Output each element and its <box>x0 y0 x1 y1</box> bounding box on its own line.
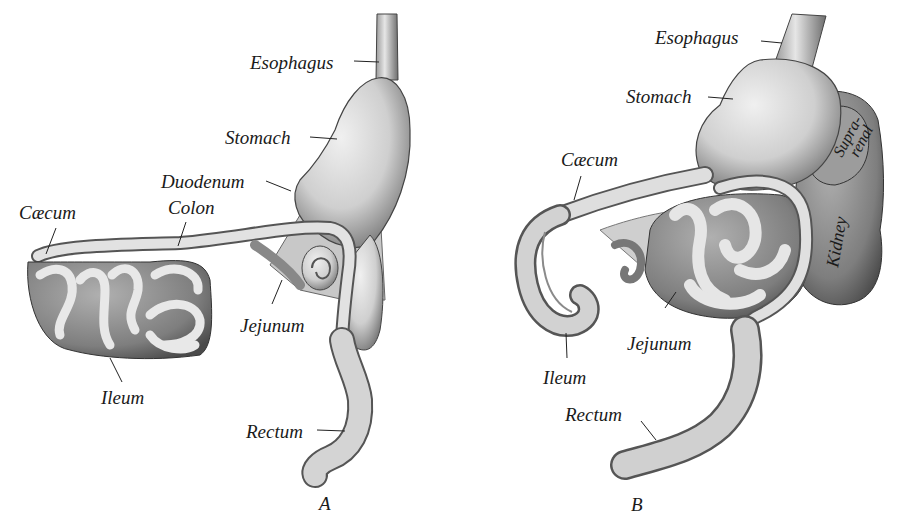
label-jejunum-b: Jejunum <box>627 334 691 353</box>
label-colon-a: Colon <box>168 198 214 217</box>
label-ileum-b: Ileum <box>543 368 586 387</box>
label-duodenum-a: Duodenum <box>161 172 244 191</box>
panel-a-drawing <box>28 14 411 475</box>
label-stomach-a: Stomach <box>225 128 290 147</box>
rectum-shape-a <box>314 340 360 475</box>
ileum-fold-b <box>542 232 572 312</box>
label-stomach-b: Stomach <box>626 87 691 106</box>
label-esophagus-b: Esophagus <box>655 28 738 47</box>
label-ileum-a: Ileum <box>101 388 144 407</box>
label-esophagus-a: Esophagus <box>250 53 333 72</box>
label-caecum-a: Cæcum <box>19 203 76 222</box>
anatomy-figure: Supra- renal Kidney Esophagus Stomach Du… <box>0 0 901 526</box>
jejunum-loop-a <box>302 246 338 290</box>
panel-b-drawing: Supra- renal Kidney <box>525 14 883 465</box>
label-rectum-b: Rectum <box>565 405 622 424</box>
label-caecum-b: Cæcum <box>561 150 618 169</box>
label-jejunum-a: Jejunum <box>240 316 304 335</box>
esophagus-shape-a <box>376 14 398 80</box>
label-rectum-a: Rectum <box>246 422 303 441</box>
digestive-tract-illustration: Supra- renal Kidney <box>0 0 901 526</box>
panel-letter-a: A <box>319 493 331 515</box>
panel-letter-b: B <box>631 494 643 516</box>
